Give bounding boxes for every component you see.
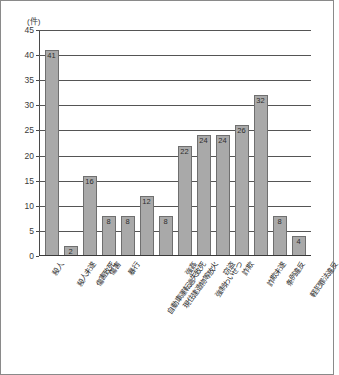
bar-slot: 2 xyxy=(61,30,80,256)
bar: 24 xyxy=(197,135,211,256)
bar-value-label: 8 xyxy=(277,218,281,226)
x-axis-label-slot: 殺人 xyxy=(42,259,61,373)
x-axis-label-slot: 条例違反 xyxy=(270,259,289,373)
x-axis-label-slot: 詐欺未遂 xyxy=(251,259,270,373)
bar: 22 xyxy=(178,146,192,256)
bar: 8 xyxy=(159,216,173,256)
bar-slot: 8 xyxy=(270,30,289,256)
bar-slot: 24 xyxy=(213,30,232,256)
bar: 8 xyxy=(273,216,287,256)
bar-slot: 16 xyxy=(80,30,99,256)
bar-value-label: 8 xyxy=(106,218,110,226)
bar-slot: 41 xyxy=(42,30,61,256)
x-axis-label-slot: 窃盗 xyxy=(213,259,232,373)
x-axis-label-slot: 現住建造物等放火 xyxy=(156,259,175,373)
bar: 12 xyxy=(140,196,154,256)
bar: 8 xyxy=(121,216,135,256)
bar-slot: 32 xyxy=(251,30,270,256)
y-axis-tick-label: 45 xyxy=(25,25,34,35)
bar-slot: 26 xyxy=(232,30,251,256)
x-axis-label-slot: 暴行 xyxy=(118,259,137,373)
bar-slot: 8 xyxy=(156,30,175,256)
x-axis-labels-group: 殺人殺人未遂傷害致死傷害暴行自動車運転過失致死現住建造物等放火強姦強制わいせつ窃… xyxy=(39,259,311,373)
bar: 8 xyxy=(102,216,116,256)
bar-slot: 22 xyxy=(175,30,194,256)
y-axis-tick-label: 40 xyxy=(25,50,34,60)
x-axis-label-slot: 自動車運転過失致死 xyxy=(137,259,156,373)
bar-value-label: 24 xyxy=(218,137,226,145)
x-axis-label-slot: 強姦 xyxy=(175,259,194,373)
bar-value-label: 12 xyxy=(142,198,150,206)
bar-value-label: 41 xyxy=(47,52,55,60)
bar-slot: 24 xyxy=(194,30,213,256)
y-axis-tick-label: 15 xyxy=(25,176,34,186)
bar-value-label: 24 xyxy=(199,137,207,145)
bar: 4 xyxy=(292,236,306,256)
bar-slot: 12 xyxy=(137,30,156,256)
bar-value-label: 8 xyxy=(125,218,129,226)
bar-slot: 4 xyxy=(289,30,308,256)
bar: 41 xyxy=(45,50,59,256)
bar-slot: 8 xyxy=(118,30,137,256)
bar-value-label: 26 xyxy=(237,127,245,135)
x-axis-label-slot: 詐欺 xyxy=(232,259,251,373)
bar-value-label: 16 xyxy=(85,178,93,186)
bar-value-label: 8 xyxy=(163,218,167,226)
bar-value-label: 4 xyxy=(296,238,300,246)
y-axis-tick-label: 30 xyxy=(25,100,34,110)
bars-group: 4121688128222424263284 xyxy=(39,30,311,256)
x-axis-label-slot: 強制わいせつ xyxy=(194,259,213,373)
x-axis-label-slot: 軽犯罪法違反 xyxy=(289,259,308,373)
y-axis-tick-label: 0 xyxy=(29,251,34,261)
x-axis-label: 軽犯罪法違反 xyxy=(309,261,339,299)
y-axis-tick-mark xyxy=(36,256,40,257)
bar: 26 xyxy=(235,125,249,256)
bar-slot: 8 xyxy=(99,30,118,256)
bar-value-label: 22 xyxy=(180,148,188,156)
bar-value-label: 32 xyxy=(256,97,264,105)
x-axis-label-text: 軽犯罪法違反 xyxy=(309,261,339,299)
y-axis-tick-label: 5 xyxy=(29,226,34,236)
y-axis-tick-label: 20 xyxy=(25,151,34,161)
y-axis-tick-label: 25 xyxy=(25,125,34,135)
y-axis-tick-label: 35 xyxy=(25,75,34,85)
y-axis-tick-label: 10 xyxy=(25,201,34,211)
x-axis-label-slot: 傷害 xyxy=(99,259,118,373)
x-axis-label-slot: 傷害致死 xyxy=(80,259,99,373)
x-axis-line xyxy=(39,255,311,256)
bar: 32 xyxy=(254,95,268,256)
plot-area: 051015202530354045 412168812822242426328… xyxy=(39,30,311,256)
bar: 24 xyxy=(216,135,230,256)
bar: 16 xyxy=(83,176,97,256)
x-axis-label-slot: 殺人未遂 xyxy=(61,259,80,373)
